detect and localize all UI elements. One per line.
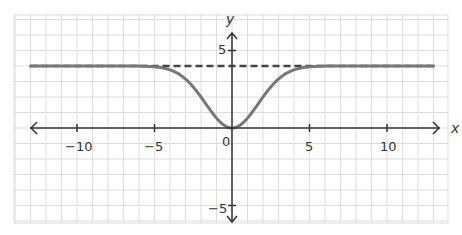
y-axis-label: y: [225, 11, 235, 27]
x-tick-label-10: 10: [380, 139, 397, 154]
x-tick-label-5: 5: [305, 139, 313, 154]
x-tick-label-minus-10: −10: [65, 139, 92, 154]
x-axis-label: x: [450, 120, 460, 136]
x-axis: [30, 122, 440, 134]
origin-label: 0: [222, 134, 230, 149]
grid: [14, 15, 448, 223]
function-graph: x y 0 −10 −5 5 10 5 −5: [0, 0, 462, 235]
y-tick-label-5: 5: [218, 42, 226, 57]
x-tick-label-minus-5: −5: [144, 139, 163, 154]
y-tick-label-minus-5: −5: [208, 201, 227, 216]
